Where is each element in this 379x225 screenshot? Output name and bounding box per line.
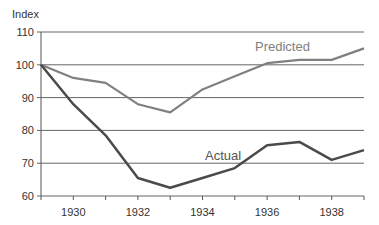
- line-chart: Index 60708090100110 1930193219341936193…: [0, 0, 379, 225]
- x-tick-label: 1938: [319, 206, 343, 218]
- x-tick-label: 1936: [255, 206, 279, 218]
- y-tick-label: 60: [22, 190, 34, 202]
- y-tick-label: 110: [16, 26, 34, 38]
- actual-line: [41, 65, 364, 188]
- y-tick-label: 70: [22, 157, 34, 169]
- x-tick-label: 1930: [61, 206, 85, 218]
- series-lines: [41, 48, 364, 187]
- actual-series-label: Actual: [205, 148, 241, 163]
- y-tick-label: 80: [22, 124, 34, 136]
- gridlines: [37, 32, 364, 196]
- y-tick-label: 100: [16, 59, 34, 71]
- y-axis-ticks: 60708090100110: [16, 26, 34, 202]
- predicted-line: [41, 48, 364, 112]
- y-axis-title: Index: [12, 8, 39, 20]
- x-tick-label: 1932: [126, 206, 150, 218]
- y-tick-label: 90: [22, 92, 34, 104]
- x-tick-label: 1934: [190, 206, 214, 218]
- predicted-series-label: Predicted: [255, 39, 310, 54]
- x-axis-ticks: 19301932193419361938: [61, 196, 364, 218]
